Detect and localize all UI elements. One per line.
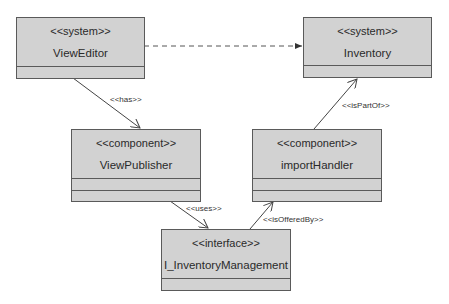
edge-label-has: <<has>> [110, 95, 142, 104]
node-stereotype: <<system>> [17, 25, 144, 37]
node-inventory[interactable]: <<system>> Inventory [303, 17, 432, 78]
node-name: Inventory [304, 47, 431, 59]
node-header: <<system>> ViewEditor [17, 18, 144, 67]
node-viewpublisher[interactable]: <<component>> ViewPublisher [71, 129, 201, 202]
node-stereotype: <<component>> [253, 137, 381, 149]
node-name: ViewEditor [17, 47, 144, 59]
node-vieweditor[interactable]: <<system>> ViewEditor [16, 17, 145, 79]
node-name: importHandler [253, 159, 381, 171]
node-importhandler[interactable]: <<component>> importHandler [252, 129, 382, 202]
node-header: <<system>> Inventory [304, 18, 431, 66]
node-name: ViewPublisher [72, 159, 200, 171]
node-name: I_InventoryManagement [162, 259, 290, 271]
node-compartment [72, 179, 200, 191]
node-header: <<component>> ViewPublisher [72, 130, 200, 179]
edge-label-ispartof: <<isPartOf>> [342, 101, 390, 110]
node-compartment [253, 179, 381, 191]
edge-label-uses: <<uses>> [186, 204, 222, 213]
node-stereotype: <<interface>> [162, 237, 290, 249]
node-stereotype: <<component>> [72, 137, 200, 149]
edge-label-isofferedby: <<isOfferedBy>> [263, 215, 323, 224]
node-stereotype: <<system>> [304, 25, 431, 37]
node-iinventorymanagement[interactable]: <<interface>> I_InventoryManagement [161, 229, 291, 291]
uml-diagram: <<system>> ViewEditor <<system>> Invento… [0, 0, 449, 304]
node-header: <<component>> importHandler [253, 130, 381, 179]
node-header: <<interface>> I_InventoryManagement [162, 230, 290, 279]
